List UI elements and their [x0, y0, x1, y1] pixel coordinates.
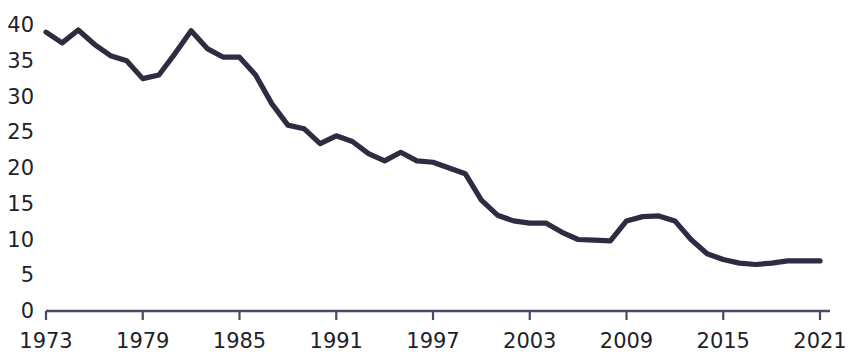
y-axis-tick-label: 10 — [7, 228, 34, 252]
x-axis-tick-labels: 197319791985199119972003200920152021 — [19, 329, 846, 353]
x-axis-tick-label: 1979 — [116, 329, 169, 353]
y-axis-tick-label: 40 — [7, 13, 34, 37]
y-axis-tick-labels: 0510152025303540 — [7, 13, 34, 323]
y-axis-tick-label: 30 — [7, 85, 34, 109]
x-axis: 197319791985199119972003200920152021 — [19, 311, 846, 353]
y-axis-tick-label: 0 — [21, 299, 34, 323]
x-axis-tick-label: 1997 — [406, 329, 459, 353]
x-axis-tick-label: 2009 — [600, 329, 653, 353]
x-axis-tick-label: 1985 — [213, 329, 266, 353]
x-axis-tick-label: 2015 — [697, 329, 750, 353]
line-chart: 0510152025303540 19731979198519911997200… — [0, 0, 849, 359]
x-axis-ticks — [46, 311, 820, 320]
y-axis-tick-label: 25 — [7, 120, 34, 144]
x-axis-tick-label: 1991 — [310, 329, 363, 353]
chart-canvas: 0510152025303540 19731979198519911997200… — [0, 0, 849, 359]
data-series-line — [46, 30, 820, 265]
y-axis-tick-label: 35 — [7, 49, 34, 73]
x-axis-tick-label: 2021 — [793, 329, 846, 353]
y-axis-tick-label: 5 — [21, 263, 34, 287]
y-axis-tick-label: 20 — [7, 156, 34, 180]
x-axis-tick-label: 2003 — [503, 329, 556, 353]
x-axis-tick-label: 1973 — [19, 329, 72, 353]
y-axis-tick-label: 15 — [7, 192, 34, 216]
